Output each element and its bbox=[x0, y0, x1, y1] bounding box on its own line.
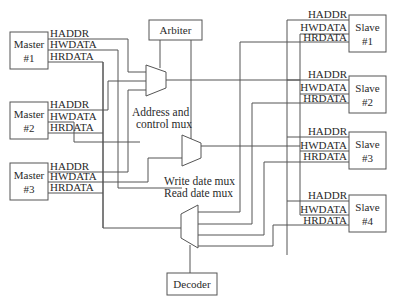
master-3: Master #3 HADDR HWDATA HRDATA bbox=[10, 160, 97, 200]
m1-hwdata-label: HWDATA bbox=[50, 38, 97, 50]
arbiter: Arbiter bbox=[149, 20, 202, 40]
write-data-mux bbox=[182, 135, 201, 166]
s1-hrdata-label: HRDATA bbox=[303, 31, 347, 43]
decoder-label: Decoder bbox=[173, 278, 211, 290]
addr-mux-caption-1: Address and bbox=[132, 106, 189, 118]
ahb-bus-diagram: Master #1 HADDR HWDATA HRDATA Master #2 … bbox=[0, 0, 398, 305]
arbiter-label: Arbiter bbox=[160, 24, 192, 36]
s2-hrdata-label: HRDATA bbox=[303, 92, 347, 104]
data-mux-caption-1: Write date mux bbox=[164, 175, 235, 187]
decoder: Decoder bbox=[167, 273, 217, 295]
slave-1-number: #1 bbox=[362, 35, 373, 47]
slave-3-label: Slave bbox=[355, 138, 380, 150]
slave-3-number: #3 bbox=[362, 152, 374, 164]
m2-haddr-label: HADDR bbox=[50, 98, 90, 110]
s1-haddr-label: HADDR bbox=[308, 8, 348, 20]
master-2-label: Master bbox=[14, 108, 45, 120]
slave-2: Slave #2 HADDR HWDATA HRDATA bbox=[300, 68, 386, 113]
data-mux-caption-2: Read date mux bbox=[164, 187, 233, 199]
read-data-mux bbox=[181, 205, 198, 248]
master-1-label: Master bbox=[14, 38, 45, 50]
s2-haddr-label: HADDR bbox=[308, 68, 348, 80]
master-1: Master #1 HADDR HWDATA HRDATA bbox=[10, 27, 97, 69]
address-control-mux bbox=[146, 65, 166, 96]
slave-1: Slave #1 HADDR HWDATA HRDATA bbox=[300, 8, 386, 52]
slave-2-number: #2 bbox=[362, 96, 373, 108]
slave-4-number: #4 bbox=[362, 215, 374, 227]
master-3-number: #3 bbox=[24, 183, 36, 195]
s3-haddr-label: HADDR bbox=[308, 125, 348, 137]
s4-haddr-label: HADDR bbox=[308, 189, 348, 201]
master-1-number: #1 bbox=[24, 52, 35, 64]
addr-mux-caption-2: control mux bbox=[136, 118, 192, 130]
s4-hrdata-label: HRDATA bbox=[303, 214, 347, 226]
slave-4-label: Slave bbox=[355, 201, 380, 213]
m1-hrdata-label: HRDATA bbox=[50, 50, 94, 62]
master-3-label: Master bbox=[14, 169, 45, 181]
master-2: Master #2 HADDR HWDATA HRDATA bbox=[10, 98, 97, 139]
m2-hrdata-label: HRDATA bbox=[50, 121, 94, 133]
slave-1-label: Slave bbox=[355, 21, 380, 33]
master-2-number: #2 bbox=[24, 122, 35, 134]
slave-4: Slave #4 HADDR HWDATA HRDATA bbox=[300, 189, 386, 232]
slave-2-label: Slave bbox=[355, 82, 380, 94]
m3-hrdata-label: HRDATA bbox=[50, 181, 94, 193]
s3-hrdata-label: HRDATA bbox=[303, 150, 347, 162]
